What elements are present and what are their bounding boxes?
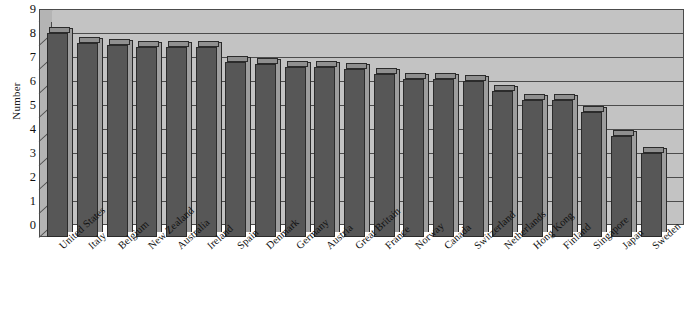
bar-side-face (187, 42, 192, 232)
bar-side-face (98, 38, 103, 232)
bar[interactable] (344, 69, 365, 237)
bar-side-face (513, 86, 518, 232)
bar-side-face (484, 76, 489, 232)
y-axis-tick-label: 7 (20, 51, 36, 64)
bar[interactable] (403, 79, 424, 237)
bar[interactable] (581, 112, 602, 237)
bar-side-face (217, 42, 222, 232)
bar[interactable] (196, 47, 217, 237)
bar-front-face (403, 79, 424, 237)
bar-side-face (424, 74, 429, 232)
plot-area (39, 9, 684, 237)
bar-side-face (128, 40, 133, 232)
bar-side-face (276, 59, 281, 232)
y-axis-tick-label: 2 (20, 171, 36, 184)
bar-front-face (433, 79, 454, 237)
y-axis-tick-label: 8 (20, 27, 36, 40)
bar[interactable] (285, 67, 306, 237)
bar[interactable] (433, 79, 454, 237)
bar-side-face (365, 64, 370, 232)
bar-front-face (463, 81, 484, 237)
bar-side-face (632, 131, 637, 232)
bar-side-face (157, 42, 162, 232)
bar-side-face (306, 62, 311, 232)
y-axis-tick-label: 1 (20, 195, 36, 208)
bar-side-face (454, 74, 459, 232)
bar-front-face (581, 112, 602, 237)
bar-front-face (314, 67, 335, 237)
bar-side-face (602, 107, 607, 232)
bar-series (39, 9, 684, 237)
bar-side-face (335, 62, 340, 232)
bar-front-face (285, 67, 306, 237)
bar-front-face (641, 153, 662, 237)
bar-side-face (246, 57, 251, 232)
bar[interactable] (314, 67, 335, 237)
bar[interactable] (463, 81, 484, 237)
bar[interactable] (47, 33, 68, 237)
bar-front-face (225, 62, 246, 237)
bar-front-face (196, 47, 217, 237)
bar-side-face (68, 28, 73, 232)
y-axis-tick-label: 3 (20, 147, 36, 160)
bar[interactable] (255, 64, 276, 237)
bar-front-face (107, 45, 128, 237)
bar-front-face (47, 33, 68, 237)
bar-side-face (662, 148, 667, 232)
bar[interactable] (225, 62, 246, 237)
y-axis-tick-label: 5 (20, 99, 36, 112)
y-axis-tick-label: 9 (20, 3, 36, 16)
bar-chart: Number 9876543210 United StatesItalyBelg… (0, 0, 688, 315)
bar-front-face (136, 47, 157, 237)
y-axis-tick-label: 6 (20, 75, 36, 88)
y-axis-tick-labels: 9876543210 (20, 0, 36, 245)
bar[interactable] (107, 45, 128, 237)
bar[interactable] (641, 153, 662, 237)
bar-front-face (344, 69, 365, 237)
bar-side-face (573, 95, 578, 232)
bar-front-face (255, 64, 276, 237)
y-axis-tick-label: 0 (20, 219, 36, 232)
y-axis-tick-label: 4 (20, 123, 36, 136)
bar[interactable] (136, 47, 157, 237)
